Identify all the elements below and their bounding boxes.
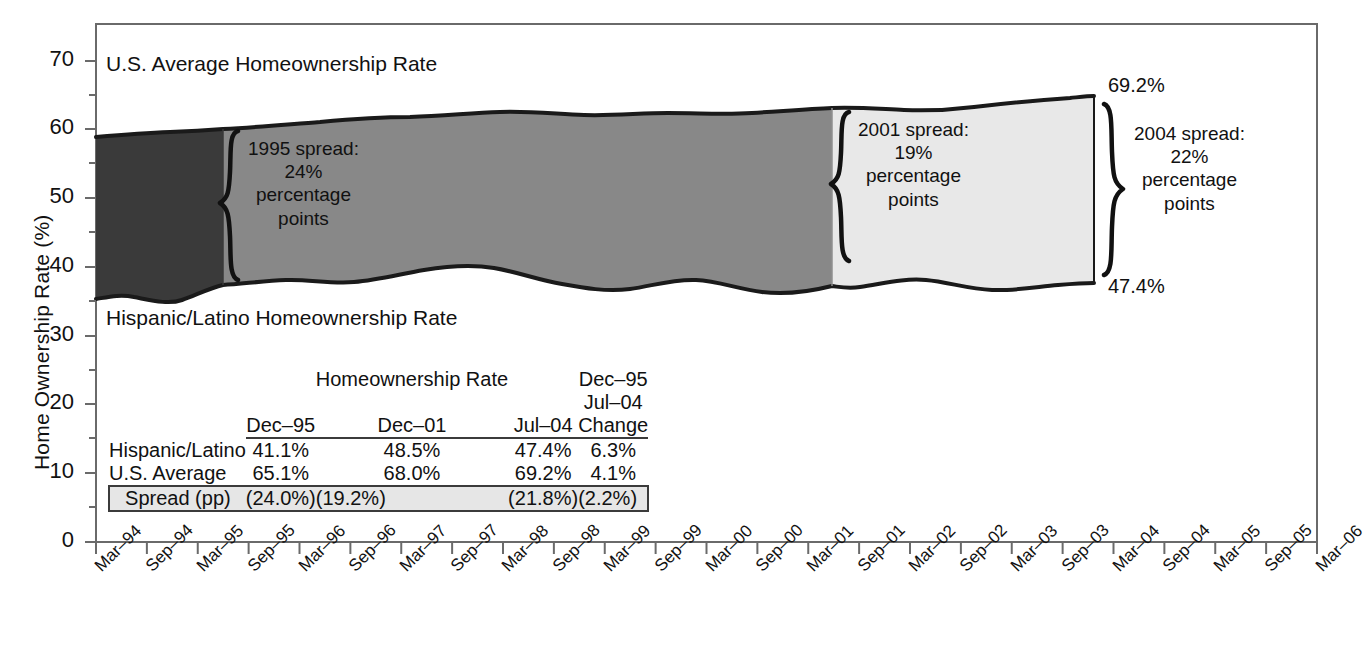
table-row: U.S. Average 65.1% 68.0% 69.2% 4.1%: [109, 462, 648, 486]
table-spread-name: Spread (pp): [109, 486, 246, 511]
annotation-2004-spread: 2004 spread: 22% percentage points: [1134, 122, 1245, 215]
table-row2-col3: 69.2%: [508, 462, 578, 486]
table-spread-col3: (21.8%): [508, 486, 578, 511]
series-label-us-average: U.S. Average Homeownership Rate: [106, 52, 437, 76]
table-spread-col4: (2.2%): [578, 486, 648, 511]
table-row1-col2: 48.5%: [316, 438, 508, 462]
y-tick-60: 60: [28, 114, 74, 140]
table-row1-col1: 41.1%: [246, 438, 316, 462]
table-group-header: Homeownership Rate: [316, 368, 508, 391]
table-spread-row: Spread (pp) (24.0%) (19.2%) (21.8%) (2.2…: [109, 486, 648, 511]
band-dark-1994-1995: [96, 129, 223, 302]
y-axis-ticks: [85, 61, 96, 542]
table-row1-col3: 47.4%: [508, 438, 578, 462]
table-spread-col2: (19.2%): [316, 486, 508, 511]
table-row2-col1: 65.1%: [246, 462, 316, 486]
table-col2-header: Dec–01: [316, 414, 508, 437]
annotation-1995-spread: 1995 spread: 24% percentage points: [248, 137, 359, 230]
y-tick-20: 20: [28, 389, 74, 415]
endpoint-label-hispanic-latino: 47.4%: [1108, 275, 1165, 298]
table-row1-col4: 6.3%: [578, 438, 648, 462]
y-tick-70: 70: [28, 46, 74, 72]
x-tick-label-24: Mar–06: [1312, 521, 1367, 576]
table-col1-header: Dec–95: [246, 414, 316, 437]
table-spread-col1: (24.0%): [246, 486, 316, 511]
summary-table-grid: Homeownership Rate Dec–95 Jul–04 Dec–95 …: [108, 368, 649, 512]
table-row1-name: Hispanic/Latino: [109, 438, 246, 462]
y-tick-0: 0: [28, 527, 74, 553]
table-header-row: Dec–95 Dec–01 Jul–04 Change: [109, 414, 648, 437]
y-tick-30: 30: [28, 321, 74, 347]
y-tick-50: 50: [28, 183, 74, 209]
table-col4-line1: Dec–95: [578, 368, 648, 391]
table-row2-col4: 4.1%: [578, 462, 648, 486]
table-col3-header: Jul–04: [508, 414, 578, 437]
endpoint-label-us-average: 69.2%: [1108, 74, 1165, 97]
y-tick-40: 40: [28, 252, 74, 278]
series-label-hispanic-latino: Hispanic/Latino Homeownership Rate: [106, 306, 457, 330]
table-row2-col2: 68.0%: [316, 462, 508, 486]
table-header-mid-row: Jul–04: [109, 391, 648, 414]
annotation-2001-spread: 2001 spread: 19% percentage points: [858, 118, 969, 211]
table-col4-line2: Jul–04: [578, 391, 648, 414]
y-tick-10: 10: [28, 458, 74, 484]
table-row2-name: U.S. Average: [109, 462, 246, 486]
table-header-group-row: Homeownership Rate Dec–95: [109, 368, 648, 391]
table-col4-header: Change: [578, 414, 648, 437]
summary-table: Homeownership Rate Dec–95 Jul–04 Dec–95 …: [108, 368, 649, 512]
table-row: Hispanic/Latino 41.1% 48.5% 47.4% 6.3%: [109, 438, 648, 462]
